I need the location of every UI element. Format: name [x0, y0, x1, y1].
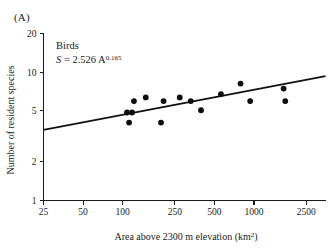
data-point: [126, 120, 132, 126]
x-tick-label: 25: [39, 207, 49, 217]
annotation-group: Birds S = 2.526 A0.165: [56, 40, 122, 65]
y-axis-title: Number of resident species: [5, 65, 16, 174]
x-tick-label: 100: [115, 207, 130, 217]
data-point: [188, 98, 194, 104]
fit-equation: S = 2.526 A0.165: [56, 54, 122, 66]
figure-panel-a: (A) Birds S = 2.526 A0.165 1251020 25501…: [0, 0, 332, 248]
equation-coefficient: 2.526: [72, 54, 96, 65]
data-point: [238, 81, 244, 87]
data-point: [131, 98, 137, 104]
data-point: [198, 107, 204, 113]
group-label: Birds: [56, 40, 79, 51]
species-area-scatter-chart: Birds S = 2.526 A0.165 1251020 255010025…: [0, 0, 332, 248]
x-axis-ticks: 255010025050010002500: [39, 201, 316, 217]
x-tick-label: 2500: [297, 207, 316, 217]
data-point: [158, 120, 164, 126]
x-tick-label: 1000: [245, 207, 264, 217]
data-point: [282, 98, 288, 104]
data-point: [177, 95, 183, 101]
x-axis-title-main: Area above 2300 m elevation (km: [114, 231, 251, 243]
data-point: [161, 98, 167, 104]
y-axis-ticks: 1251020: [27, 29, 44, 206]
data-series-group: [44, 76, 326, 130]
x-axis-title-tail: ): [254, 231, 257, 243]
data-point: [143, 95, 149, 101]
x-axis-title: Area above 2300 m elevation (km2): [114, 231, 257, 244]
data-point: [124, 110, 130, 116]
equation-exponent: 0.165: [106, 54, 122, 62]
data-point: [281, 86, 287, 92]
y-tick-label: 5: [32, 106, 37, 116]
y-tick-label: 10: [27, 68, 37, 78]
y-tick-label: 2: [32, 157, 37, 167]
x-tick-label: 50: [78, 207, 88, 217]
x-tick-label: 500: [207, 207, 222, 217]
y-tick-label: 20: [27, 29, 37, 39]
data-point: [247, 98, 253, 104]
y-tick-label: 1: [32, 196, 37, 206]
x-tick-label: 250: [168, 207, 183, 217]
data-point: [129, 110, 135, 116]
data-point: [218, 91, 224, 97]
